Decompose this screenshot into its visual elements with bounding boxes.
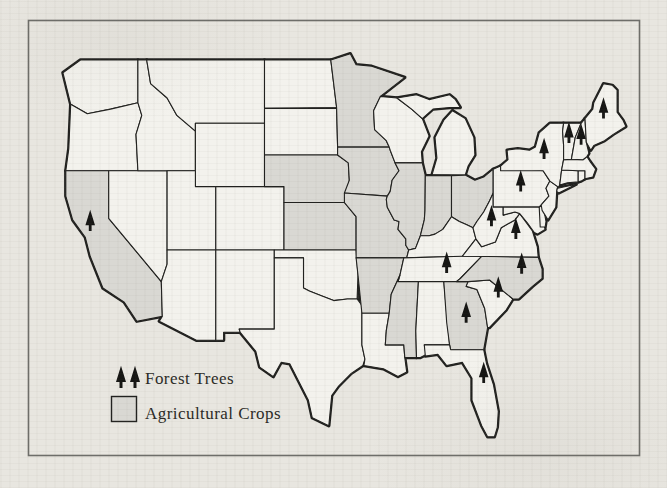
state-new-mexico <box>216 250 274 340</box>
state-south-dakota <box>265 108 338 155</box>
forest-trees-legend-icon <box>116 366 140 388</box>
scanned-page: Forest Trees Agricultural Crops <box>0 0 667 488</box>
forest-trees-label: Forest Trees <box>145 369 234 388</box>
us-forest-and-crops-map: Forest Trees Agricultural Crops <box>0 0 667 488</box>
state-oregon <box>66 103 142 171</box>
state-maine <box>585 84 626 151</box>
state-kansas <box>284 203 356 251</box>
state-colorado <box>216 187 284 250</box>
agricultural-crops-swatch <box>112 397 137 422</box>
legend: Forest Trees Agricultural Crops <box>112 366 282 423</box>
agricultural-crops-label: Agricultural Crops <box>145 404 281 423</box>
state-wyoming <box>195 123 264 186</box>
state-north-dakota <box>265 60 337 108</box>
legend-tree-icon-2 <box>130 366 140 388</box>
legend-tree-icon-1 <box>116 366 126 388</box>
